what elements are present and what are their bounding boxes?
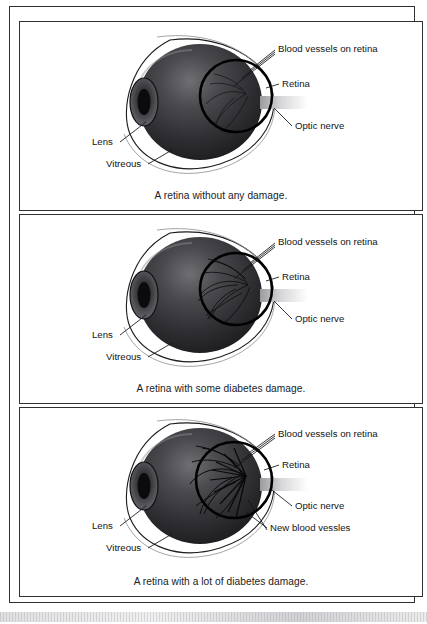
panel-lot-damage: Blood vessels on retina Retina Optic ner… — [19, 407, 423, 597]
label-retina: Retina — [282, 271, 310, 282]
label-optic-nerve: Optic nerve — [295, 500, 344, 511]
label-new-blood-vessels: New blood vessles — [270, 522, 350, 533]
optic-nerve-body — [260, 478, 308, 491]
label-vitreous: Vitreous — [106, 542, 141, 553]
label-blood-vessels-on-retina: Blood vessels on retina — [278, 428, 378, 439]
lens-core — [138, 89, 151, 115]
label-optic-nerve: Optic nerve — [295, 313, 344, 324]
eye-diagram-some-damage: Blood vessels on retina Retina Optic ner… — [20, 215, 422, 377]
optic-nerve-body — [260, 289, 308, 302]
optic-nerve-body — [260, 96, 308, 109]
label-vitreous: Vitreous — [106, 158, 141, 169]
label-retina: Retina — [282, 459, 310, 470]
panel-caption: A retina with a lot of diabetes damage. — [20, 576, 422, 587]
label-lens: Lens — [92, 520, 113, 531]
label-lens: Lens — [92, 136, 113, 147]
label-vitreous: Vitreous — [106, 351, 141, 362]
scan-edge-artifact — [0, 612, 427, 622]
eye-diagram-lot-damage: Blood vessels on retina Retina Optic ner… — [20, 408, 422, 570]
lens-core — [138, 473, 151, 499]
panel-caption: A retina with some diabetes damage. — [20, 383, 422, 394]
label-blood-vessels-on-retina: Blood vessels on retina — [278, 236, 378, 247]
panel-caption: A retina without any damage. — [20, 190, 422, 201]
label-lens: Lens — [92, 329, 113, 340]
label-optic-nerve: Optic nerve — [295, 120, 344, 131]
eye-diagram-normal: Blood vessels on retina Retina Optic ner… — [20, 22, 422, 184]
panel-normal: Blood vessels on retina Retina Optic ner… — [19, 21, 423, 211]
lens-core — [138, 282, 151, 308]
label-retina: Retina — [282, 78, 310, 89]
label-blood-vessels-on-retina: Blood vessels on retina — [278, 43, 378, 54]
panel-some-damage: Blood vessels on retina Retina Optic ner… — [19, 214, 423, 404]
figure-outer-frame: Blood vessels on retina Retina Optic ner… — [9, 6, 415, 603]
